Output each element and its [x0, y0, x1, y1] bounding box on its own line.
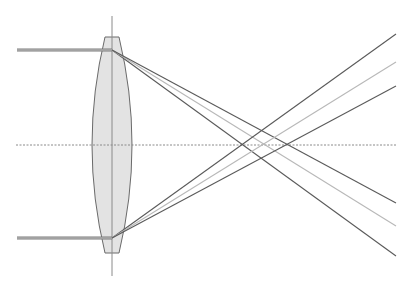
refracted-ray-upper-light: [112, 50, 396, 226]
refracted-ray-upper-dark-1: [112, 50, 396, 256]
refracted-ray-lower-dark-1: [112, 34, 396, 238]
lens-ray-diagram: [0, 0, 412, 290]
refracted-ray-upper-dark-2: [112, 50, 396, 203]
diagram-canvas: [0, 0, 412, 290]
refracted-ray-lower-light: [112, 62, 396, 238]
refracted-ray-lower-dark-2: [112, 86, 396, 238]
